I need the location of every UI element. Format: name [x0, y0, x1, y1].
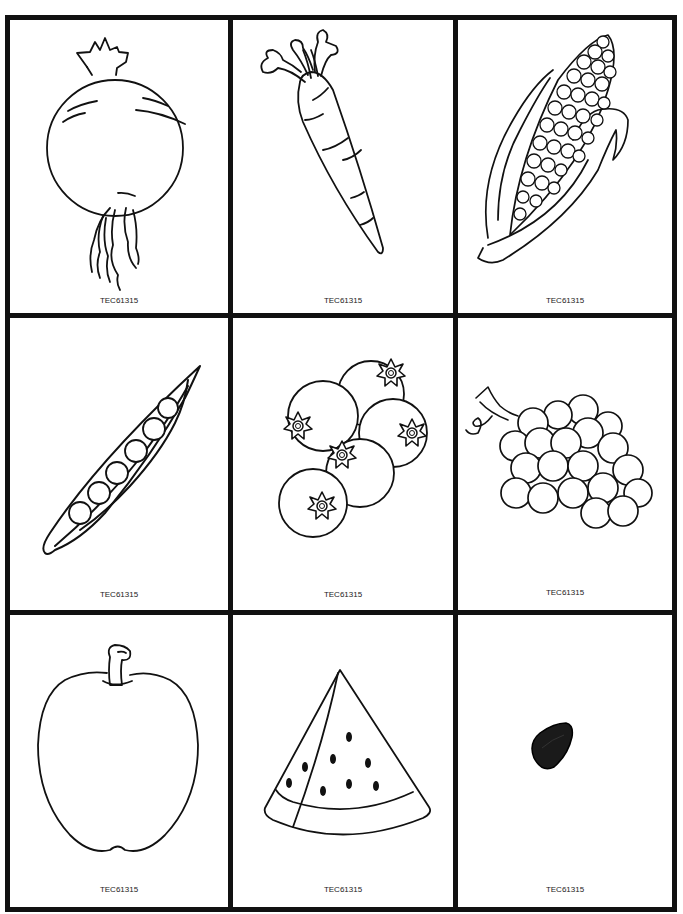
card-watermelon: TEC61315 — [233, 615, 453, 907]
peas-in-pod-icon — [10, 318, 228, 610]
card-code-label: TEC61315 — [458, 588, 672, 597]
blueberries-icon — [233, 318, 453, 610]
carrot-icon — [233, 20, 453, 313]
card-code-label: TEC61315 — [10, 885, 228, 894]
card-blueberries: TEC61315 — [233, 318, 453, 610]
card-code-label: TEC61315 — [10, 296, 228, 305]
grapes-icon — [458, 318, 672, 610]
card-code-label: TEC61315 — [458, 885, 672, 894]
card-beet: TEC61315 — [10, 20, 228, 313]
card-apple: TEC61315 — [10, 615, 228, 907]
apple-icon — [10, 615, 228, 907]
card-code-label: TEC61315 — [233, 885, 453, 894]
card-seed: TEC61315 — [458, 615, 672, 907]
card-code-label: TEC61315 — [10, 590, 228, 599]
seed-icon — [458, 615, 672, 907]
card-code-label: TEC61315 — [458, 296, 672, 305]
card-carrot: TEC61315 — [233, 20, 453, 313]
corn-icon — [458, 20, 672, 310]
card-peas: TEC61315 — [10, 318, 228, 610]
beet-icon — [10, 20, 228, 313]
card-code-label: TEC61315 — [233, 590, 453, 599]
card-corn: TEC61315 — [458, 20, 672, 310]
cropped-header-text: · · · · · · — [140, 0, 182, 4]
card-code-label: TEC61315 — [233, 296, 453, 305]
card-grapes: TEC61315 — [458, 318, 672, 610]
watermelon-slice-icon — [233, 615, 453, 907]
